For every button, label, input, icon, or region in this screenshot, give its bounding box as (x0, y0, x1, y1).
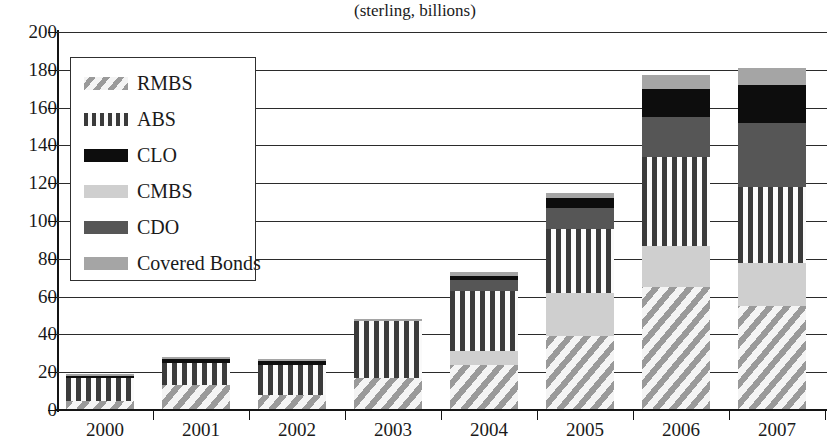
legend-label: CMBS (137, 181, 193, 201)
bar-segment-clo[interactable] (738, 85, 806, 123)
x-tick-label-2006: 2006 (633, 419, 729, 441)
bar-2004[interactable] (450, 32, 518, 410)
y-tick-mark (48, 372, 57, 373)
bar-segment-cmbs[interactable] (546, 293, 614, 336)
bar-segment-cmbs[interactable] (450, 351, 518, 364)
y-tick-mark (48, 334, 57, 335)
x-tick-label-2000: 2000 (57, 419, 153, 441)
legend-label: ABS (137, 109, 176, 129)
y-tick-mark (48, 297, 57, 298)
legend-item-cmbs[interactable]: CMBS (71, 173, 255, 209)
bar-segment-covered-bonds[interactable] (450, 272, 518, 276)
bar-segment-rmbs[interactable] (642, 287, 710, 410)
legend-label: CDO (137, 217, 179, 237)
y-axis: 200180160140120100806040200 (0, 0, 57, 446)
bar-segment-covered-bonds[interactable] (354, 319, 422, 321)
bar-2002[interactable] (258, 32, 326, 410)
y-tick-mark (48, 108, 57, 109)
bar-segment-abs[interactable] (162, 363, 230, 386)
bar-segment-cdo[interactable] (642, 117, 710, 157)
bar-segment-rmbs[interactable] (450, 365, 518, 410)
bar-segment-abs[interactable] (450, 291, 518, 351)
bar-segment-covered-bonds[interactable] (258, 359, 326, 361)
bar-2006[interactable] (642, 32, 710, 410)
y-tick-mark (48, 32, 57, 33)
bar-segment-cdo[interactable] (450, 280, 518, 291)
legend-label: CLO (137, 145, 177, 165)
x-tick-label-2007: 2007 (729, 419, 825, 441)
bar-2005[interactable] (546, 32, 614, 410)
bar-segment-cdo[interactable] (738, 123, 806, 187)
legend-item-abs[interactable]: ABS (71, 101, 255, 137)
chart-subtitle: (sterling, billions) (0, 1, 830, 21)
legend-item-cdo[interactable]: CDO (71, 209, 255, 245)
y-tick-mark (48, 259, 57, 260)
x-tick-label-2002: 2002 (249, 419, 345, 441)
bar-segment-covered-bonds[interactable] (642, 75, 710, 88)
stacked-bar-chart: (sterling, billions) 2001801601401201008… (0, 0, 830, 446)
y-tick-mark (48, 183, 57, 184)
bar-segment-abs[interactable] (66, 378, 134, 401)
covered-bonds-swatch (84, 257, 128, 270)
bar-segment-covered-bonds[interactable] (546, 193, 614, 199)
bar-segment-cmbs[interactable] (738, 263, 806, 306)
bar-segment-clo[interactable] (642, 89, 710, 117)
bar-2003[interactable] (354, 32, 422, 410)
legend-label: RMBS (137, 73, 193, 93)
bar-segment-abs[interactable] (354, 321, 422, 378)
y-tick-mark (48, 221, 57, 222)
bar-segment-clo[interactable] (162, 359, 230, 363)
cmbs-swatch (84, 185, 128, 198)
bar-segment-covered-bonds[interactable] (738, 68, 806, 85)
bar-segment-abs[interactable] (642, 157, 710, 246)
y-tick-mark (48, 145, 57, 146)
abs-swatch (84, 113, 128, 126)
legend-item-covered-bonds[interactable]: Covered Bonds (71, 245, 255, 281)
bar-segment-rmbs[interactable] (738, 306, 806, 410)
clo-swatch (84, 149, 128, 162)
bar-segment-cdo[interactable] (546, 208, 614, 229)
bar-segment-abs[interactable] (258, 365, 326, 395)
y-tick-mark (48, 70, 57, 71)
cdo-swatch (84, 221, 128, 234)
rmbs-swatch (84, 77, 128, 90)
legend-item-clo[interactable]: CLO (71, 137, 255, 173)
x-tick-label-2001: 2001 (153, 419, 249, 441)
bar-segment-covered-bonds[interactable] (66, 374, 134, 376)
bar-segment-clo[interactable] (66, 376, 134, 378)
bar-segment-rmbs[interactable] (354, 378, 422, 410)
bar-segment-abs[interactable] (546, 229, 614, 293)
bar-segment-rmbs[interactable] (546, 336, 614, 410)
bar-segment-clo[interactable] (546, 198, 614, 207)
x-tick-mark (825, 409, 826, 420)
chart-legend: RMBSABSCLOCMBSCDOCovered Bonds (70, 57, 256, 281)
legend-label: Covered Bonds (137, 253, 261, 273)
bar-segment-clo[interactable] (450, 276, 518, 280)
bar-segment-abs[interactable] (738, 187, 806, 263)
bar-segment-cmbs[interactable] (642, 246, 710, 288)
bar-segment-rmbs[interactable] (162, 385, 230, 410)
legend-item-rmbs[interactable]: RMBS (71, 65, 255, 101)
bar-segment-clo[interactable] (258, 361, 326, 365)
bar-2007[interactable] (738, 32, 806, 410)
x-tick-label-2005: 2005 (537, 419, 633, 441)
bar-segment-covered-bonds[interactable] (162, 357, 230, 359)
bar-segment-rmbs[interactable] (258, 395, 326, 410)
x-tick-label-2003: 2003 (345, 419, 441, 441)
x-tick-label-2004: 2004 (441, 419, 537, 441)
